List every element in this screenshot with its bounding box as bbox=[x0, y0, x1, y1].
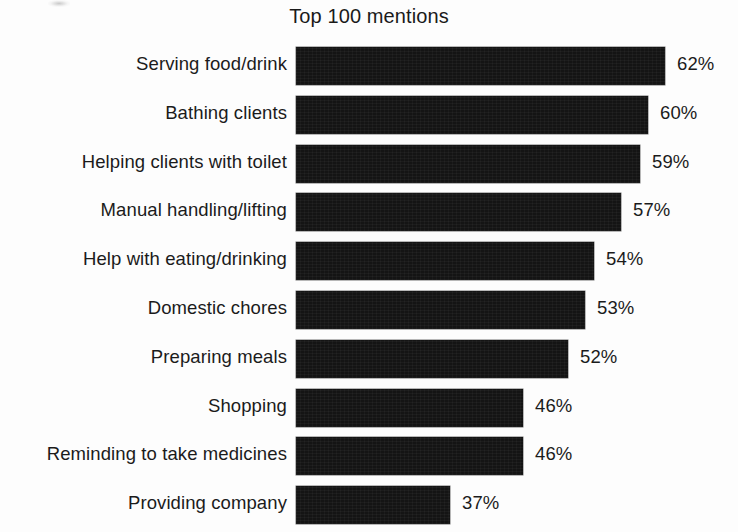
value-label: 62% bbox=[677, 44, 714, 84]
bar bbox=[296, 96, 648, 134]
bar bbox=[296, 486, 450, 524]
bar bbox=[296, 242, 594, 280]
category-label: Providing company bbox=[128, 483, 287, 523]
value-label: 54% bbox=[606, 239, 643, 279]
bar-row: Serving food/drink62% bbox=[0, 44, 738, 84]
bar-chart-figure: Top 100 mentions Serving food/drink62%Ba… bbox=[0, 0, 738, 532]
category-label: Reminding to take medicines bbox=[47, 434, 287, 474]
category-label: Serving food/drink bbox=[136, 44, 287, 84]
bar-row: Manual handling/lifting57% bbox=[0, 190, 738, 230]
value-label: 53% bbox=[597, 288, 634, 328]
bar bbox=[296, 291, 585, 329]
value-label: 60% bbox=[660, 93, 697, 133]
category-label: Bathing clients bbox=[165, 93, 287, 133]
category-label: Preparing meals bbox=[151, 337, 287, 377]
bar-row: Preparing meals52% bbox=[0, 337, 738, 377]
value-label: 46% bbox=[535, 434, 572, 474]
value-label: 52% bbox=[580, 337, 617, 377]
bar-row: Shopping46% bbox=[0, 386, 738, 426]
bar bbox=[296, 193, 621, 231]
chart-title: Top 100 mentions bbox=[0, 5, 738, 28]
bar-row: Bathing clients60% bbox=[0, 93, 738, 133]
bar bbox=[296, 145, 640, 183]
category-label: Manual handling/lifting bbox=[101, 190, 287, 230]
plot-area: Serving food/drink62%Bathing clients60%H… bbox=[0, 44, 738, 514]
category-label: Shopping bbox=[208, 386, 287, 426]
value-label: 37% bbox=[462, 483, 499, 523]
category-label: Helping clients with toilet bbox=[82, 142, 287, 182]
value-label: 59% bbox=[652, 142, 689, 182]
bar-row: Reminding to take medicines46% bbox=[0, 434, 738, 474]
bar-row: Domestic chores53% bbox=[0, 288, 738, 328]
bar-row: Providing company37% bbox=[0, 483, 738, 523]
bar-row: Help with eating/drinking54% bbox=[0, 239, 738, 279]
bar bbox=[296, 437, 523, 475]
bar bbox=[296, 47, 665, 85]
value-label: 57% bbox=[633, 190, 670, 230]
category-label: Help with eating/drinking bbox=[83, 239, 287, 279]
bar-row: Helping clients with toilet59% bbox=[0, 142, 738, 182]
value-label: 46% bbox=[535, 386, 572, 426]
bar bbox=[296, 389, 523, 427]
bar bbox=[296, 340, 568, 378]
category-label: Domestic chores bbox=[148, 288, 287, 328]
